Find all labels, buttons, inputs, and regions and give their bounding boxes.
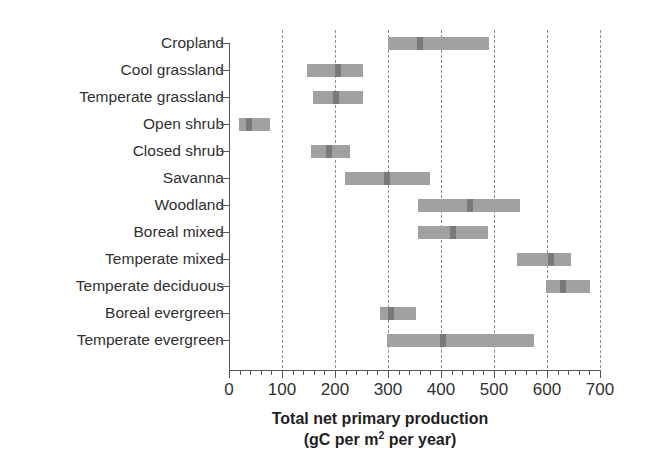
x-tick-label: 700 — [586, 381, 614, 398]
x-axis-minor-tick — [346, 371, 347, 375]
category-label: Temperate grassland — [4, 89, 224, 105]
x-axis-minor-tick — [356, 371, 357, 375]
category-label: Boreal evergreen — [4, 305, 224, 321]
median-marker — [246, 118, 252, 131]
y-axis-tick — [220, 124, 229, 125]
x-axis-title: Total net primary production (gC per m2 … — [170, 408, 590, 450]
category-label: Cropland — [4, 35, 224, 51]
x-tick-label: 300 — [374, 381, 402, 398]
x-axis-major-tick — [494, 371, 495, 378]
x-axis-title-line1: Total net primary production — [272, 410, 489, 427]
range-bar — [239, 118, 270, 131]
x-axis-minor-tick — [568, 371, 569, 375]
x-axis-minor-tick — [462, 371, 463, 375]
x-tick-label: 0 — [224, 381, 233, 398]
x-axis-minor-tick — [314, 371, 315, 375]
x-tick-label: 400 — [427, 381, 455, 398]
median-marker — [326, 145, 332, 158]
median-marker — [335, 64, 341, 77]
y-axis-tick — [220, 313, 229, 314]
x-tick-label: 100 — [268, 381, 296, 398]
median-marker — [467, 199, 473, 212]
range-bar — [387, 334, 534, 347]
category-label: Temperate mixed — [4, 251, 224, 267]
x-axis-minor-tick — [367, 371, 368, 375]
x-axis-minor-tick — [558, 371, 559, 375]
x-axis-minor-tick — [261, 371, 262, 375]
y-axis-tick — [220, 70, 229, 71]
y-axis-tick — [220, 232, 229, 233]
range-bar — [380, 307, 416, 320]
x-axis-major-tick — [547, 371, 548, 378]
category-label: Closed shrub — [4, 143, 224, 159]
category-label: Temperate evergreen — [4, 332, 224, 348]
median-marker — [560, 280, 566, 293]
x-axis-minor-tick — [377, 371, 378, 375]
range-bar — [517, 253, 571, 266]
category-label: Savanna — [4, 170, 224, 186]
x-axis-minor-tick — [409, 371, 410, 375]
x-axis-minor-tick — [430, 371, 431, 375]
y-axis-tick — [220, 286, 229, 287]
x-axis-minor-tick — [324, 371, 325, 375]
x-axis-major-tick — [335, 371, 336, 378]
median-marker — [548, 253, 554, 266]
x-tick-label: 600 — [533, 381, 561, 398]
y-axis-tick — [220, 151, 229, 152]
y-axis-tick — [220, 205, 229, 206]
category-label: Open shrub — [4, 116, 224, 132]
x-axis-minor-tick — [250, 371, 251, 375]
x-tick-label: 500 — [480, 381, 508, 398]
x-axis-minor-tick — [452, 371, 453, 375]
category-label: Cool grassland — [4, 62, 224, 78]
x-axis-major-tick — [600, 371, 601, 378]
x-axis-major-tick — [282, 371, 283, 378]
median-marker — [388, 307, 394, 320]
y-axis-tick — [220, 259, 229, 260]
x-axis-minor-tick — [505, 371, 506, 375]
median-marker — [417, 37, 423, 50]
x-axis-minor-tick — [473, 371, 474, 375]
x-tick-label: 200 — [321, 381, 349, 398]
x-axis-title-unit-pre: (gC per m — [304, 431, 379, 448]
median-marker — [333, 91, 339, 104]
x-axis-major-tick — [229, 371, 230, 378]
x-axis-title-line2: (gC per m2 per year) — [170, 429, 590, 450]
x-axis-minor-tick — [483, 371, 484, 375]
gridline — [600, 30, 601, 368]
x-axis-minor-tick — [526, 371, 527, 375]
category-label: Temperate deciduous — [4, 278, 224, 294]
x-axis-minor-tick — [293, 371, 294, 375]
range-bar — [388, 37, 489, 50]
median-marker — [384, 172, 390, 185]
y-axis-tick — [220, 43, 229, 44]
category-label-column: CroplandCool grasslandTemperate grasslan… — [0, 0, 224, 380]
x-axis-minor-tick — [579, 371, 580, 375]
x-axis-title-unit-post: per year) — [384, 431, 456, 448]
range-bar — [546, 280, 590, 293]
category-label: Boreal mixed — [4, 224, 224, 240]
x-axis-major-tick — [388, 371, 389, 378]
x-axis-minor-tick — [536, 371, 537, 375]
y-axis-tick — [220, 97, 229, 98]
x-axis-minor-tick — [515, 371, 516, 375]
plot-area — [229, 30, 600, 375]
x-axis-minor-tick — [271, 371, 272, 375]
x-axis-minor-tick — [420, 371, 421, 375]
median-marker — [450, 226, 456, 239]
x-axis-minor-tick — [240, 371, 241, 375]
x-axis-major-tick — [441, 371, 442, 378]
category-label: Woodland — [4, 197, 224, 213]
y-axis-tick — [220, 178, 229, 179]
npp-range-chart: CroplandCool grasslandTemperate grasslan… — [0, 0, 647, 468]
x-axis-minor-tick — [589, 371, 590, 375]
x-axis-minor-tick — [303, 371, 304, 375]
x-axis-minor-tick — [399, 371, 400, 375]
y-axis-tick — [220, 340, 229, 341]
median-marker — [440, 334, 446, 347]
